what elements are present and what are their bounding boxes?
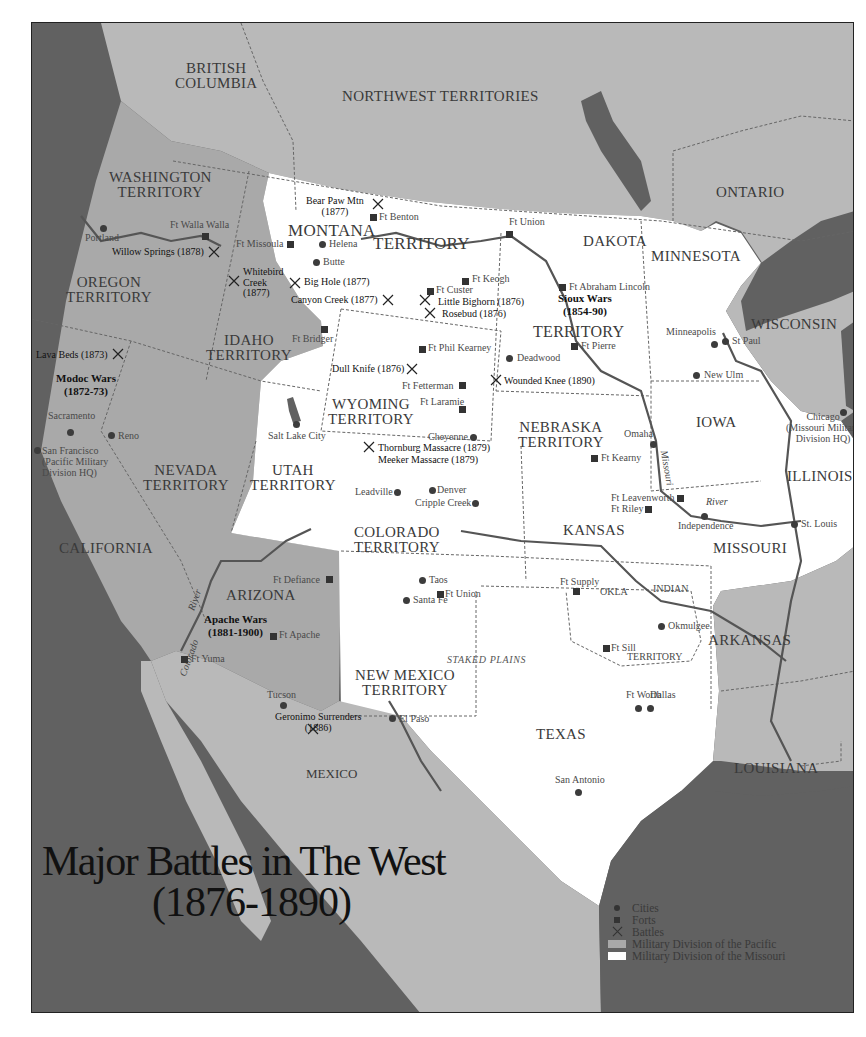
label-arkansas: ARKANSAS bbox=[708, 633, 791, 648]
city-dot-icon bbox=[608, 905, 626, 911]
city-marker-el-paso bbox=[389, 715, 396, 722]
city-st-paul: St Paul bbox=[732, 336, 761, 346]
city-tucson: Tucson bbox=[267, 690, 296, 700]
legend: Cities Forts Battles Military Division o… bbox=[608, 902, 785, 962]
battle-marker-willow-springs bbox=[208, 246, 220, 258]
label-louisiana: LOUISIANA bbox=[734, 761, 818, 776]
city-new-ulm: New Ulm bbox=[704, 370, 743, 380]
legend-label-pacific: Military Division of the Pacific bbox=[632, 938, 776, 950]
fort-marker-kearny bbox=[591, 455, 598, 462]
battle-marker-dull-knife bbox=[406, 363, 418, 375]
city-cheyenne: Cheyenne bbox=[428, 432, 468, 442]
city-marker-tucson bbox=[280, 702, 287, 709]
fort-marker-riley bbox=[645, 506, 652, 513]
label-texas: TEXAS bbox=[536, 727, 586, 742]
crossed-swords-icon bbox=[608, 926, 626, 937]
fort-apache: Ft Apache bbox=[279, 630, 320, 640]
label-dakota: DAKOTA bbox=[583, 234, 647, 249]
label-washington-territory: WASHINGTON TERRITORY bbox=[109, 170, 212, 200]
city-marker-cripple-creek bbox=[472, 500, 479, 507]
city-minneapolis: Minneapolis bbox=[666, 327, 716, 337]
city-marker-independence bbox=[701, 513, 708, 520]
war-modoc-wars: Modoc Wars (1872-73) bbox=[56, 372, 116, 397]
battle-marker-little-bighorn bbox=[419, 294, 431, 306]
city-salt-lake-city: Salt Lake City bbox=[268, 431, 326, 441]
label-oregon-territory: OREGON TERRITORY bbox=[66, 275, 152, 305]
label-british-columbia: BRITISH COLUMBIA bbox=[175, 61, 257, 91]
fort-marker-fetterman bbox=[459, 382, 466, 389]
battle-bear-paw-mtn: Bear Paw Mtn (1877) bbox=[306, 195, 364, 217]
label-colorado-territory: COLORADO TERRITORY bbox=[354, 525, 440, 555]
city-cripple-creek: Cripple Creek bbox=[415, 498, 471, 508]
fort-kearny: Ft Kearny bbox=[601, 453, 641, 463]
battle-whitebird-creek: Whitebird Creek (1877) bbox=[243, 267, 284, 299]
city-portland: Portland bbox=[85, 233, 119, 243]
battle-marker-rosebud bbox=[424, 307, 436, 319]
fort-marker-missoula bbox=[287, 241, 294, 248]
fort-pierre: Ft Pierre bbox=[581, 341, 616, 351]
city-taos: Taos bbox=[429, 575, 448, 585]
battle-marker-lava-beds bbox=[112, 348, 124, 360]
legend-label-missouri: Military Division of the Missouri bbox=[632, 950, 785, 962]
city-sacramento: Sacramento bbox=[48, 411, 95, 421]
battle-dull-knife: Dull Knife (1876) bbox=[332, 364, 404, 374]
city-san-antonio: San Antonio bbox=[555, 775, 605, 785]
battle-thornburg-massacre: Thornburg Massacre (1879) bbox=[378, 443, 490, 453]
fort-yuma: Ft Yuma bbox=[191, 654, 225, 664]
fort-marker-bridger bbox=[321, 326, 328, 333]
city-marker-helena bbox=[319, 241, 326, 248]
city-marker-st-paul bbox=[722, 338, 729, 345]
fort-missoula: Ft Missoula bbox=[236, 239, 284, 249]
war-sioux-wars: Sioux Wars (1854-90) bbox=[558, 292, 612, 317]
battle-marker-thornburg bbox=[363, 441, 375, 453]
fort-defiance: Ft Defiance bbox=[273, 575, 320, 585]
label-iowa: IOWA bbox=[696, 415, 736, 430]
battle-big-hole: Big Hole (1877) bbox=[304, 277, 370, 287]
city-reno: Reno bbox=[118, 431, 139, 441]
map-subtitle: (1876-1890) bbox=[152, 881, 351, 923]
city-marker-portland bbox=[100, 225, 107, 232]
city-independence: Independence bbox=[678, 521, 734, 531]
battle-marker-geronimo-surrenders bbox=[307, 723, 319, 735]
city-dallas: Dallas bbox=[650, 690, 676, 700]
label-wisconsin: WISCONSIN bbox=[751, 317, 837, 332]
war-apache-wars: Apache Wars (1881-1900) bbox=[204, 613, 267, 638]
city-marker-taos bbox=[419, 577, 426, 584]
battle-marker-big-hole bbox=[289, 277, 301, 289]
city-marker-cheyenne bbox=[470, 434, 477, 441]
label-indian: INDIAN bbox=[653, 584, 689, 594]
fort-union-dakota: Ft Union bbox=[509, 217, 545, 227]
legend-item-battles: Battles bbox=[608, 926, 785, 937]
city-omaha: Omaha bbox=[624, 429, 653, 439]
city-marker-minneapolis bbox=[711, 341, 718, 348]
fort-marker-abraham-lincoln bbox=[559, 284, 566, 291]
city-san-francisco: San Francisco (Pacific Military Division… bbox=[42, 445, 108, 478]
fort-marker-phil-kearney bbox=[419, 346, 426, 353]
fort-supply: Ft Supply bbox=[560, 577, 599, 587]
label-nebraska-territory: NEBRASKA TERRITORY bbox=[518, 420, 604, 450]
city-butte: Butte bbox=[323, 257, 345, 267]
legend-item-missouri: Military Division of the Missouri bbox=[608, 950, 785, 961]
label-california: CALIFORNIA bbox=[59, 541, 153, 556]
fort-marker-supply bbox=[573, 588, 580, 595]
battle-canyon-creek: Canyon Creek (1877) bbox=[291, 295, 378, 305]
city-marker-butte bbox=[313, 259, 320, 266]
label-montana: MONTANA bbox=[288, 222, 376, 239]
battle-willow-springs: Willow Springs (1878) bbox=[112, 247, 204, 257]
label-staked-plains: STAKED PLAINS bbox=[447, 655, 526, 665]
city-denver: Denver bbox=[437, 485, 466, 495]
fort-laramie: Ft Laramie bbox=[420, 397, 464, 407]
city-marker-san-francisco bbox=[34, 447, 41, 454]
battle-rosebud: Rosebud (1876) bbox=[442, 309, 506, 319]
fort-leavenworth: Ft Leavenworth bbox=[611, 493, 675, 503]
city-marker-salt-lake-city bbox=[293, 421, 300, 428]
missouri-swatch-icon bbox=[608, 952, 626, 960]
city-okmulgee: Okmulgee bbox=[668, 621, 710, 631]
label-kansas: KANSAS bbox=[563, 523, 625, 538]
fort-marker-leavenworth bbox=[677, 495, 684, 502]
label-montana-territory: TERRITORY bbox=[373, 235, 470, 252]
fort-marker-yuma bbox=[181, 656, 188, 663]
legend-item-cities: Cities bbox=[608, 902, 785, 913]
label-arizona: ARIZONA bbox=[226, 588, 296, 603]
fort-custer: Ft Custer bbox=[436, 285, 473, 295]
